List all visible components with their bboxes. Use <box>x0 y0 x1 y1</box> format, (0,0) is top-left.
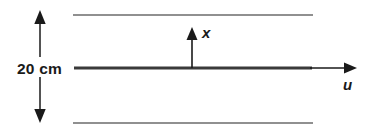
channel-flow-diagram: 20 cm x u <box>0 0 376 136</box>
x-axis-label: x <box>201 24 211 41</box>
diagram-canvas: 20 cm x u <box>0 0 376 136</box>
u-axis-label: u <box>343 76 352 93</box>
dimension-label: 20 cm <box>17 60 62 77</box>
